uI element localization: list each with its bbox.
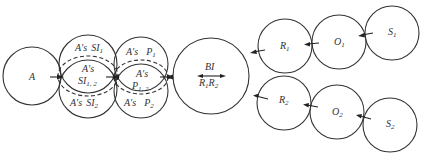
svg-text:S1: S1 (388, 26, 397, 39)
svg-text:O2: O2 (332, 106, 343, 119)
node-a-label: A (28, 71, 36, 82)
svg-text:P1, 2: P1, 2 (131, 80, 149, 93)
arrow-r1-to-bi (250, 50, 265, 55)
svg-text:BI: BI (205, 61, 215, 72)
svg-text:O1: O1 (334, 36, 345, 49)
node-r1: R1 (258, 19, 312, 73)
svg-text:R1: R1 (279, 40, 290, 53)
node-s1: S1 (365, 6, 419, 60)
diagram-canvas: A A'sSI1 A's SI1, 2 A'sSI2 A'sP1 A's P1,… (0, 0, 424, 154)
svg-text:A's: A's (135, 68, 148, 79)
svg-text:A'sP1: A'sP1 (125, 46, 156, 59)
arrow-si-to-p (106, 75, 120, 80)
arrow-p-to-bi (160, 75, 174, 80)
node-p-group: A'sP1 A's P1, 2 A'sP2 (114, 37, 168, 118)
svg-text:A'sSI1: A'sSI1 (74, 42, 103, 55)
svg-text:A's: A's (81, 63, 94, 74)
svg-text:A'sSI2: A'sSI2 (69, 97, 98, 110)
svg-text:S2: S2 (386, 118, 395, 131)
node-s2: S2 (363, 98, 417, 152)
node-a: A (3, 47, 61, 105)
svg-text:A'sP2: A'sP2 (123, 97, 154, 110)
arrow-r2-to-bi (253, 94, 268, 100)
svg-text:SI1, 2: SI1, 2 (78, 75, 97, 88)
svg-text:R1R2: R1R2 (198, 77, 219, 90)
node-o1: O1 (312, 15, 366, 69)
node-r2: R2 (257, 76, 311, 130)
svg-text:R2: R2 (278, 94, 289, 107)
node-o2: O2 (310, 85, 364, 139)
